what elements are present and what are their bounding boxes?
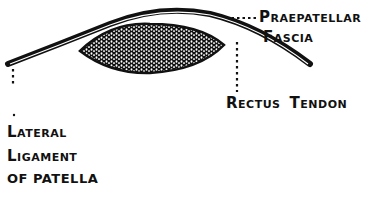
patella-bone: [80, 24, 224, 73]
patella-diagram: PRAEPATELLAR FASCIA RECTUS TENDON LATERA…: [0, 0, 377, 204]
label-of-patella: OF PATELLA: [7, 172, 98, 185]
leader-lateral-dot: [13, 114, 15, 116]
label-lateral: LATERAL: [7, 124, 67, 140]
label-fascia: FASCIA: [263, 29, 313, 45]
label-ligament: LIGAMENT: [7, 148, 77, 164]
label-rectus-tendon: RECTUS TENDON: [226, 95, 347, 111]
label-praepatellar-line1: PRAEPATELLAR: [259, 9, 361, 25]
label-praepatellar-fascia: PRAEPATELLAR: [259, 9, 361, 25]
